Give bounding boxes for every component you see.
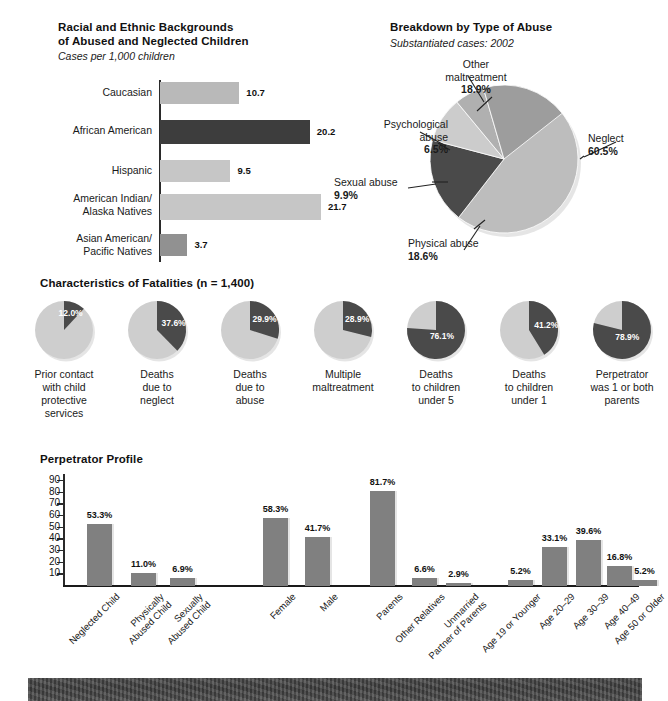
fatality-pie-caption: Deathsdue toneglect [111,368,203,407]
perpetrator-bar-value: 5.2% [624,566,665,576]
abuse-pie-callout: Neglect60.5% [588,132,624,157]
fatality-pie-caption-line: to children [483,381,575,394]
fatality-pie-caption: Multiplemaltreatment [297,368,389,394]
perpetrator-bar [131,573,156,586]
perpetrator-x-label-line: Female [207,591,298,682]
fatality-pie-caption-line: Prior contact [18,368,110,381]
abuse-pie-callout-label: Othermaltreatment [424,58,528,83]
fatality-pie-caption-line: abuse [204,394,296,407]
perp-y-tick-label: 50 [34,522,60,532]
fatality-pie-cell: 76.1%Deathsto childrenunder 5 [390,298,482,407]
fatality-pie-cell: 37.6%Deathsdue toneglect [111,298,203,407]
perpetrator-bar-chart: 10203040506070809053.3%11.0%6.9%58.3%41.… [18,474,658,586]
fatality-pie-cell: 12.0%Prior contactwith childprotectivese… [18,298,110,420]
abuse-pie-callout: Psychologicalabuse6.5% [370,118,448,156]
race-bar-value: 3.7 [194,234,207,256]
fatality-pie-svg: 29.9% [204,298,296,364]
abuse-pie-callout: Sexual abuse9.9% [334,176,398,201]
perpetrator-profile-panel: Perpetrator Profile 10203040506070809053… [18,452,658,652]
abuse-pie-callout-label: Physical abuse [408,237,479,250]
fatality-pie-value: 37.6% [162,318,187,328]
race-panel-title: Racial and Ethnic Backgrounds of Abused … [58,20,348,48]
fatality-pie-value: 28.9% [345,314,370,324]
perp-y-tick-label: 90 [34,475,60,485]
abuse-pie-callout-label: Sexual abuse [334,176,398,189]
perpetrator-bar [508,580,533,586]
perpetrator-bar [170,578,195,586]
perpetrator-bar-value: 39.6% [568,526,609,536]
abuse-breakdown-panel: Breakdown by Type of Abuse Substantiated… [352,10,662,272]
race-bar [160,194,321,220]
abuse-panel-subtitle: Substantiated cases: 2002 [390,37,514,50]
fatality-pie-value: 12.0% [59,308,84,318]
fatality-pie-caption-line: due to [204,381,296,394]
perpetrator-panel-title: Perpetrator Profile [40,452,143,466]
fatality-pie-value: 76.1% [430,331,455,341]
race-bar-label-line: Alaska Natives [20,205,152,218]
fatality-pie-caption-line: Perpetrator [576,368,668,381]
abuse-pie-callout-value: 60.5% [588,145,624,158]
perp-y-tick-label: 10 [34,568,60,578]
perpetrator-x-label-line: Partner of Parents [397,599,488,690]
race-title-line2: of Abused and Neglected Children [58,34,348,48]
perpetrator-bar [305,537,330,586]
race-bar-label-line: Asian American/ [20,232,152,245]
race-bar [160,160,230,182]
fatality-pie-svg: 37.6% [111,298,203,364]
fatality-pie-caption-line: protective [18,394,110,407]
perpetrator-bar-value: 58.3% [255,504,296,514]
perpetrator-bar-value: 6.9% [162,564,203,574]
racial-backgrounds-panel: Racial and Ethnic Backgrounds of Abused … [18,10,338,268]
abuse-pie-callout: Physical abuse18.6% [408,237,479,262]
perpetrator-bar [632,580,657,586]
perp-y-tick-label: 70 [34,498,60,508]
fatality-pie-caption-line: Multiple [297,368,389,381]
race-title-line1: Racial and Ethnic Backgrounds [58,20,348,34]
fatality-pie-value: 41.2% [534,320,559,330]
race-bar-label: African American [20,124,152,137]
race-bar-label: Hispanic [20,164,152,177]
race-bar-label-line: Caucasian [20,86,152,99]
abuse-pie-callout-value: 6.5% [370,143,448,156]
race-bar-label-line: African American [20,124,152,137]
fatality-pie-caption: Deathsto childrenunder 1 [483,368,575,407]
perpetrator-bar-value: 81.7% [362,477,403,487]
abuse-panel-title: Breakdown by Type of Abuse [390,20,552,34]
race-bar-chart: Caucasian10.7African American20.2Hispani… [18,76,338,266]
fatality-pie-cell: 28.9%Multiplemaltreatment [297,298,389,394]
fatality-pie-svg: 12.0% [18,298,110,364]
perpetrator-bar [576,540,601,586]
perpetrator-x-label: Female [207,591,298,682]
abuse-pie-callout-value: 18.9% [424,83,528,96]
fatality-pie-caption-line: maltreatment [297,381,389,394]
bottom-photo-strip [28,678,642,701]
abuse-pie-leader-line [408,184,436,188]
race-bar [160,120,310,144]
fatality-pie-cell: 78.9%Perpetratorwas 1 or bothparents [576,298,668,407]
fatalities-panel-title: Characteristics of Fatalities (n = 1,400… [40,276,254,290]
abuse-pie-callout: Othermaltreatment18.9% [424,58,528,96]
fatality-pie-caption-line: Deaths [204,368,296,381]
perpetrator-bar [446,583,471,586]
abuse-pie-chart: Neglect60.5%Physical abuse18.6%Sexual ab… [352,54,662,272]
race-bar-label: American Indian/Alaska Natives [20,192,152,217]
perpetrator-bar [542,547,567,586]
race-bar-value: 10.7 [246,82,265,104]
race-panel-subtitle: Cases per 1,000 children [58,50,348,63]
race-bar-label-line: Pacific Natives [20,245,152,258]
fatality-pie-caption-line: Deaths [483,368,575,381]
fatality-pie-caption-line: Deaths [111,368,203,381]
perpetrator-bar-value: 5.2% [500,566,541,576]
fatality-pie-cell: 29.9%Deathsdue toabuse [204,298,296,407]
race-bar-label-line: Hispanic [20,164,152,177]
perp-y-tick-label: 20 [34,557,60,567]
race-bar-label: Caucasian [20,86,152,99]
fatality-pie-svg: 28.9% [297,298,389,364]
fatality-pie-caption-line: neglect [111,394,203,407]
perpetrator-bar-value: 41.7% [297,523,338,533]
perpetrator-bar [370,491,395,586]
race-bar [160,234,187,256]
fatalities-panel: Characteristics of Fatalities (n = 1,400… [18,276,658,436]
fatality-pie-caption: Perpetratorwas 1 or bothparents [576,368,668,407]
fatality-pie-caption-line: under 1 [483,394,575,407]
